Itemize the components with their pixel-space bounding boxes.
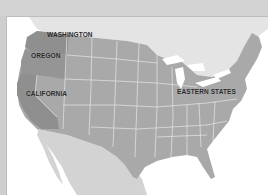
map-frame: WASHINGTON OREGON CALIFORNIA EASTERN STA… [0,0,268,195]
label-eastern-states: EASTERN STATES [177,88,236,95]
frame-top-border [0,0,268,17]
frame-left-border [0,16,7,195]
label-oregon: OREGON [31,52,61,59]
label-california: CALIFORNIA [26,90,67,97]
us-map: WASHINGTON OREGON CALIFORNIA EASTERN STA… [7,17,268,195]
label-washington: WASHINGTON [47,31,93,38]
us-map-graphic [7,17,268,195]
